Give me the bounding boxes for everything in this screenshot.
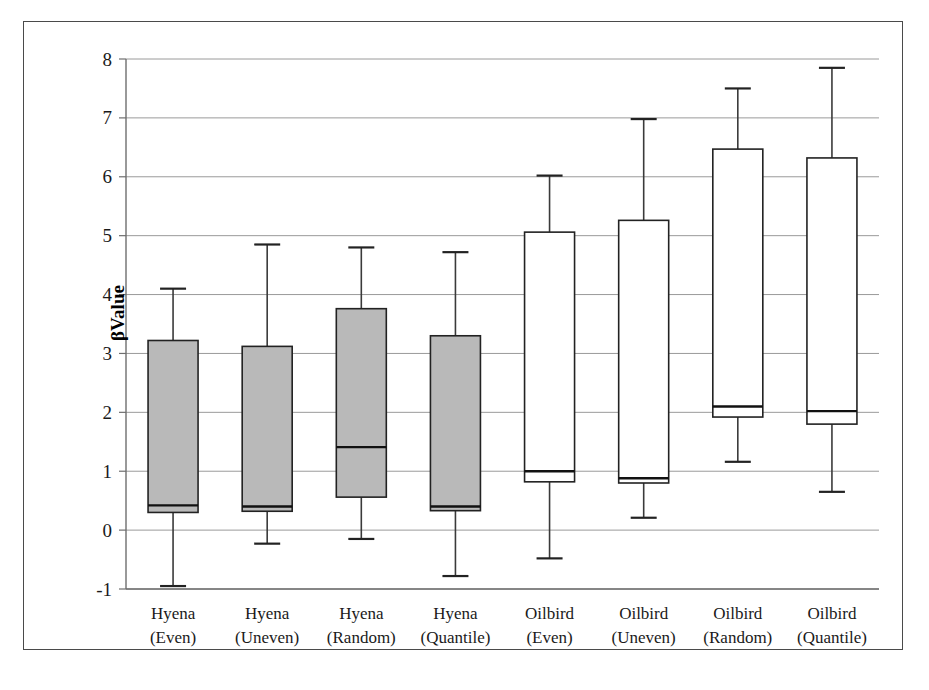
- x-category-label: (Even): [150, 628, 196, 647]
- box-plot-item[interactable]: [148, 289, 198, 586]
- box-plot-item[interactable]: [242, 245, 292, 544]
- y-tick-label: 6: [103, 166, 113, 187]
- box-plot-item[interactable]: [713, 88, 763, 461]
- x-category-label: (Random): [327, 628, 396, 647]
- y-tick-label: 2: [103, 402, 113, 423]
- x-category-label: Hyena: [433, 604, 478, 623]
- y-tick-label: 1: [103, 461, 113, 482]
- box-plot-chart: βValue 876543210-1 Hyena(Even)Hyena(Unev…: [24, 22, 904, 651]
- x-category-label: (Uneven): [612, 628, 676, 647]
- x-category-label: Hyena: [245, 604, 290, 623]
- box-plot-item[interactable]: [336, 247, 386, 539]
- y-axis-title: βValue: [107, 253, 129, 373]
- box-iqr[interactable]: [713, 149, 763, 417]
- x-category-label: (Quantile): [421, 628, 491, 647]
- box-iqr[interactable]: [807, 158, 857, 424]
- box-plot-item[interactable]: [430, 252, 480, 576]
- box-iqr[interactable]: [336, 309, 386, 497]
- box-plot-item[interactable]: [525, 176, 575, 559]
- x-category-label: Oilbird: [713, 604, 763, 623]
- box-plot-item[interactable]: [807, 68, 857, 492]
- box-iqr[interactable]: [619, 220, 669, 483]
- y-tick-label: 0: [103, 520, 113, 541]
- x-category-label: Oilbird: [525, 604, 575, 623]
- box-iqr[interactable]: [148, 340, 198, 512]
- y-tick-label: -1: [96, 579, 112, 600]
- category-labels: Hyena(Even)Hyena(Uneven)Hyena(Random)Hye…: [150, 604, 867, 647]
- x-category-label: Hyena: [339, 604, 384, 623]
- y-tick-label: 8: [103, 49, 113, 70]
- plot-area: 876543210-1 Hyena(Even)Hyena(Uneven)Hyen…: [24, 22, 904, 651]
- x-category-label: (Even): [526, 628, 572, 647]
- x-category-label: Oilbird: [807, 604, 857, 623]
- x-category-label: Hyena: [151, 604, 196, 623]
- box-iqr[interactable]: [430, 336, 480, 511]
- box-plot-item[interactable]: [619, 119, 669, 518]
- y-tick-label: 7: [103, 107, 113, 128]
- y-tick-label: 5: [103, 225, 113, 246]
- box-iqr[interactable]: [525, 232, 575, 482]
- x-category-label: (Quantile): [797, 628, 867, 647]
- figure-frame: βValue 876543210-1 Hyena(Even)Hyena(Unev…: [23, 21, 903, 650]
- box-iqr[interactable]: [242, 346, 292, 511]
- x-category-label: (Random): [703, 628, 772, 647]
- box-series: [148, 68, 857, 586]
- x-category-label: (Uneven): [235, 628, 299, 647]
- x-category-label: Oilbird: [619, 604, 669, 623]
- gridlines: [126, 59, 879, 589]
- axis-lines: [126, 59, 879, 589]
